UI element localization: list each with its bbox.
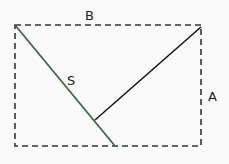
label-s: S [67,73,75,88]
label-a: A [208,89,217,104]
perpendicular-line [95,27,201,120]
dashed-rectangle [15,25,201,146]
diagonal-line-s [15,25,115,146]
label-b: B [85,8,94,23]
diagram-canvas: B S A [0,0,229,164]
